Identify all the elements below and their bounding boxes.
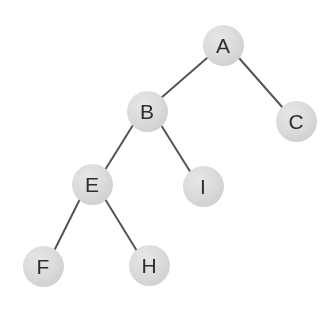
tree-node-label-c: C: [288, 111, 303, 132]
tree-node-e[interactable]: E: [72, 164, 113, 205]
tree-edge-b-e: [105, 125, 133, 170]
tree-node-h[interactable]: H: [129, 245, 170, 286]
tree-node-a[interactable]: A: [203, 25, 244, 66]
tree-node-label-h: H: [141, 255, 156, 276]
tree-edge-a-b: [161, 58, 207, 98]
tree-edge-b-i: [161, 125, 191, 173]
tree-node-c[interactable]: C: [276, 101, 317, 142]
tree-edge-e-h: [105, 199, 137, 251]
tree-diagram: ABCEIFH: [0, 0, 335, 314]
tree-edge-a-c: [239, 58, 283, 108]
tree-node-label-f: F: [37, 256, 50, 277]
tree-edge-e-f: [54, 199, 80, 251]
tree-node-f[interactable]: F: [23, 246, 64, 287]
tree-node-b[interactable]: B: [127, 91, 168, 132]
tree-node-label-e: E: [85, 174, 99, 195]
tree-node-i[interactable]: I: [183, 166, 224, 207]
tree-node-label-i: I: [200, 176, 206, 197]
tree-node-label-a: A: [216, 35, 230, 56]
tree-node-label-b: B: [140, 101, 154, 122]
